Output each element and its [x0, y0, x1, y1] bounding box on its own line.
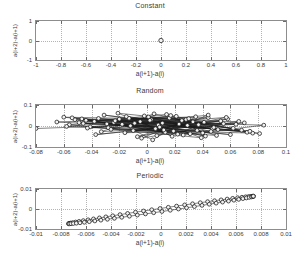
data-marker — [200, 203, 204, 207]
data-marker — [191, 120, 195, 124]
data-marker — [77, 121, 81, 125]
xtick-label: 0 — [159, 62, 162, 68]
data-marker — [202, 120, 206, 124]
data-marker — [36, 127, 38, 131]
data-marker — [154, 127, 158, 131]
data-marker — [177, 122, 181, 126]
ytick-label: -0.01 — [0, 226, 32, 232]
xtick-label: -1 — [33, 62, 38, 68]
data-marker — [248, 129, 252, 133]
data-marker — [170, 134, 174, 138]
data-marker — [128, 214, 132, 218]
data-marker — [105, 122, 109, 126]
xtick-label: -0.02 — [112, 149, 126, 155]
data-marker — [231, 126, 235, 130]
data-marker — [160, 121, 164, 125]
data-marker — [204, 134, 208, 138]
data-marker — [117, 117, 121, 121]
panel-title-periodic: Periodic — [0, 172, 300, 179]
tick-mark-x — [286, 226, 287, 229]
data-marker — [99, 130, 103, 134]
data-marker — [94, 133, 98, 137]
data-marker — [99, 218, 103, 222]
data-marker — [120, 122, 124, 126]
data-marker — [177, 207, 181, 211]
data-marker — [258, 132, 262, 136]
data-marker — [251, 194, 255, 198]
data-marker — [209, 130, 213, 134]
xtick-label: 0.4 — [207, 62, 215, 68]
data-marker — [81, 122, 85, 126]
data-marker — [180, 119, 184, 123]
data-marker — [113, 216, 117, 220]
ytick-label: -1 — [0, 57, 32, 63]
data-marker — [93, 219, 97, 223]
xtick-label: 0.08 — [252, 149, 264, 155]
data-marker — [65, 125, 69, 129]
data-marker — [74, 221, 78, 225]
data-marker — [212, 126, 216, 130]
data-marker — [176, 132, 180, 136]
xtick-label: -0.008 — [52, 231, 69, 237]
xtick-label: 0.004 — [203, 231, 218, 237]
data-layer — [36, 21, 286, 60]
data-marker — [87, 220, 91, 224]
matlab-figure: Constant -1-0.8-0.6-0.4-0.200.20.40.60.8… — [0, 0, 300, 258]
xtick-label: 0.006 — [228, 231, 243, 237]
data-marker — [159, 38, 163, 42]
data-marker — [97, 117, 101, 121]
xtick-label: 0.01 — [280, 231, 292, 237]
xlabel-constant: a(i+1)-a(i) — [0, 70, 300, 77]
data-marker — [185, 206, 189, 210]
tick-mark-y — [36, 60, 39, 61]
ytick-label: -0.1 — [0, 144, 32, 150]
data-marker — [138, 120, 142, 124]
data-marker — [102, 113, 106, 117]
xtick-label: 0.6 — [232, 62, 240, 68]
tick-mark-x — [286, 144, 287, 147]
data-marker — [151, 138, 155, 142]
panel-random: Random -0.08-0.06-0.04-0.0200.020.040.06… — [0, 86, 300, 171]
data-marker — [160, 210, 164, 214]
data-marker — [219, 119, 223, 123]
data-marker — [214, 201, 218, 205]
data-marker — [201, 131, 205, 135]
data-layer — [36, 105, 286, 147]
data-marker — [109, 127, 113, 131]
data-marker — [181, 133, 185, 137]
data-marker — [85, 126, 89, 130]
data-marker — [262, 123, 266, 127]
data-marker — [144, 212, 148, 216]
data-marker — [113, 119, 117, 123]
xtick-label: -0.6 — [81, 62, 91, 68]
data-marker — [135, 213, 139, 217]
axes-periodic — [35, 188, 287, 230]
data-marker — [55, 120, 59, 124]
panel-periodic: Periodic -0.01-0.008-0.006-0.004-0.00200… — [0, 171, 300, 258]
data-marker — [199, 136, 203, 140]
tick-mark-y — [36, 147, 39, 148]
data-marker — [148, 118, 152, 122]
xtick-label: 0.02 — [169, 149, 181, 155]
data-marker — [123, 131, 127, 135]
data-marker — [197, 123, 201, 127]
data-marker — [224, 115, 228, 119]
data-marker — [165, 113, 169, 117]
axes-random — [35, 104, 287, 148]
data-marker — [82, 220, 86, 224]
tick-mark-y — [283, 229, 286, 230]
xtick-label: -0.04 — [85, 149, 99, 155]
xtick-label: 0.002 — [178, 231, 193, 237]
data-marker — [168, 208, 172, 212]
data-marker — [221, 200, 225, 204]
xtick-label: 0.06 — [225, 149, 237, 155]
data-marker — [172, 129, 176, 133]
tick-mark-x — [286, 21, 287, 24]
data-marker — [187, 117, 191, 121]
axes-constant — [35, 20, 287, 61]
data-marker — [92, 119, 96, 123]
data-marker — [242, 121, 246, 125]
tick-mark-y — [283, 60, 286, 61]
data-marker — [158, 125, 162, 129]
data-marker — [142, 114, 146, 118]
